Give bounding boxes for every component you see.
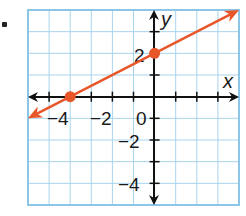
coordinate-plane: x y −4 −2 0 2 −2 −4 [0,0,246,216]
y-axis [149,10,159,205]
data-point [149,48,160,59]
origin-label: 0 [136,108,147,129]
x-axis-label: x [222,70,234,92]
y-axis-label: y [159,8,172,30]
y-tick-label-neg4: −4 [118,174,140,195]
x-tick-label-neg4: −4 [47,108,69,129]
y-tick-label-neg2: −2 [118,131,140,152]
x-tick-label-neg2: −2 [90,108,112,129]
data-point [65,91,76,102]
